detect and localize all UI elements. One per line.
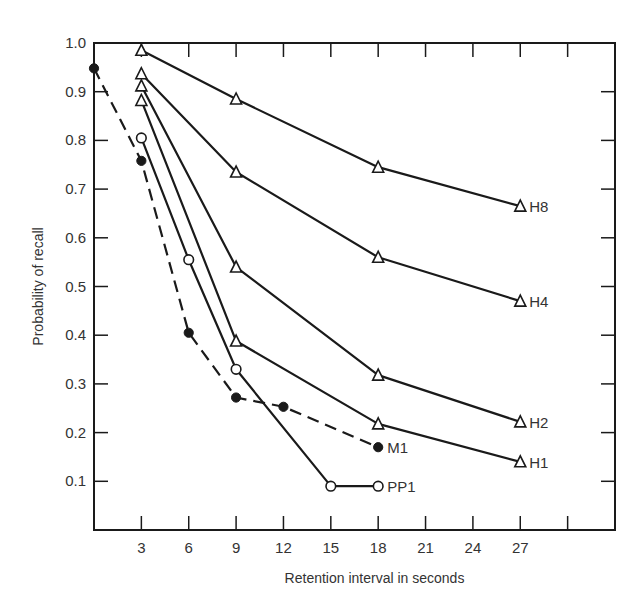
data-point-h2: [373, 369, 384, 380]
x-tick-label: 24: [465, 539, 482, 556]
data-point-m1: [89, 64, 98, 73]
data-point-h1: [231, 335, 242, 346]
x-axis-label: Retention interval in seconds: [285, 570, 465, 586]
y-tick-label: 0.9: [65, 83, 86, 100]
x-tick-label: 15: [322, 539, 339, 556]
data-point-m1: [279, 402, 288, 411]
data-point-pp1: [326, 481, 336, 491]
y-tick-label: 0.6: [65, 229, 86, 246]
series-label-h8: H8: [529, 198, 548, 215]
series-label-m1: M1: [387, 439, 408, 456]
data-point-h4: [136, 68, 147, 79]
data-point-pp1: [184, 255, 194, 265]
data-point-h2: [231, 261, 242, 272]
data-point-pp1: [231, 364, 241, 374]
y-tick-label: 0.7: [65, 180, 86, 197]
series-lines: [94, 50, 520, 486]
data-point-h2: [136, 80, 147, 91]
recall-chart: 3691215182124270.10.20.30.40.50.60.70.80…: [0, 0, 641, 612]
data-point-m1: [137, 156, 146, 165]
x-tick-label: 6: [185, 539, 193, 556]
y-tick-label: 0.1: [65, 472, 86, 489]
y-tick-label: 0.2: [65, 424, 86, 441]
data-point-pp1: [137, 133, 147, 143]
series-line-h2: [141, 86, 520, 422]
x-tick-label: 12: [275, 539, 292, 556]
y-tick-label: 1.0: [65, 34, 86, 51]
data-point-h8: [136, 44, 147, 55]
x-tick-label: 3: [137, 539, 145, 556]
data-point-pp1: [373, 481, 383, 491]
y-tick-label: 0.5: [65, 278, 86, 295]
series-label-h1: H1: [529, 454, 548, 471]
x-tick-label: 27: [512, 539, 529, 556]
y-axis-label: Probability of recall: [30, 227, 46, 345]
series-label-h4: H4: [529, 293, 548, 310]
series-labels: H8H4H2H1PP1M1: [387, 198, 548, 495]
data-point-h4: [373, 251, 384, 262]
axis-tick-labels: 3691215182124270.10.20.30.40.50.60.70.80…: [65, 34, 528, 556]
data-point-h8: [373, 161, 384, 172]
series-label-h2: H2: [529, 414, 548, 431]
x-tick-label: 21: [417, 539, 434, 556]
data-point-h1: [136, 94, 147, 105]
series-line-h4: [141, 74, 520, 301]
x-tick-label: 18: [370, 539, 387, 556]
data-point-h1: [373, 418, 384, 429]
y-tick-label: 0.3: [65, 375, 86, 392]
data-point-m1: [374, 443, 383, 452]
y-tick-label: 0.8: [65, 131, 86, 148]
x-tick-label: 9: [232, 539, 240, 556]
y-tick-label: 0.4: [65, 326, 86, 343]
data-point-m1: [184, 328, 193, 337]
data-point-h8: [231, 93, 242, 104]
data-point-m1: [231, 393, 240, 402]
series-label-pp1: PP1: [387, 478, 415, 495]
series-line-h8: [141, 50, 520, 206]
series-line-m1: [94, 68, 378, 447]
